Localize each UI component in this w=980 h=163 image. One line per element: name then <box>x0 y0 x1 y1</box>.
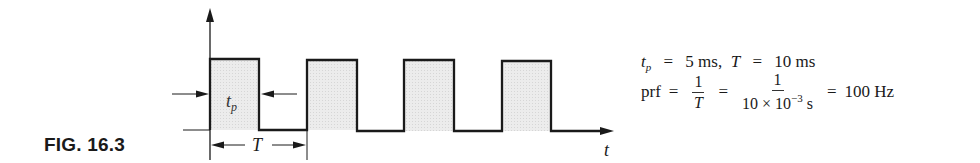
period-label: T <box>252 135 264 155</box>
arrow-left-icon <box>261 91 274 98</box>
x-axis-arrow-icon <box>600 127 614 135</box>
arrow-right-icon <box>293 142 306 149</box>
fraction-numeric: 1 10 × 10−3 s <box>742 72 813 112</box>
prf-label: prf <box>641 82 661 102</box>
arrow-right-icon <box>196 91 209 98</box>
equals-sign: = <box>718 82 728 102</box>
prf-result: 100 Hz <box>845 82 895 102</box>
tp-value: 5 ms, <box>685 52 722 71</box>
figure-label: FIG. 16.3 <box>44 134 125 156</box>
period-symbol: T <box>731 52 740 71</box>
arrow-left-icon <box>211 142 224 149</box>
formula-line-1: tp = 5 ms, T = 10 ms <box>641 52 815 73</box>
pulse-fills <box>210 59 551 131</box>
equals-sign: = <box>669 82 679 102</box>
x-axis-label: t <box>604 140 610 160</box>
period-value: 10 ms <box>774 52 815 71</box>
equals-sign: = <box>827 82 837 102</box>
equals-sign: = <box>752 52 762 71</box>
fraction-one-over-T: 1 T <box>692 74 704 111</box>
y-axis-arrow-icon <box>206 8 214 22</box>
x-axis <box>551 127 614 135</box>
equals-sign: = <box>663 52 673 71</box>
formula-line-2: prf = 1 T = 1 10 × 10−3 s = 100 Hz <box>641 72 894 112</box>
